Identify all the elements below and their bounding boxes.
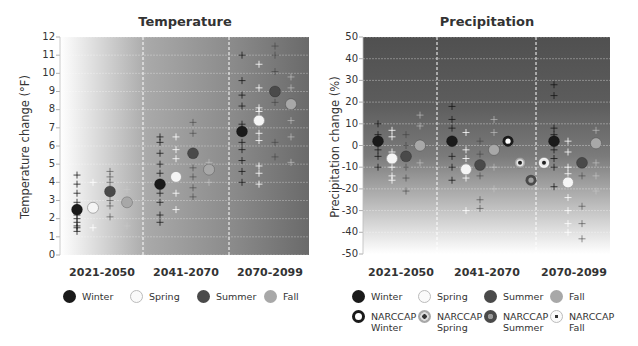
spring-mean-marker: [461, 164, 472, 175]
ytick: 0: [33, 249, 55, 260]
winter-mean-marker: [72, 204, 83, 215]
ytick: 2: [33, 212, 55, 223]
summer-mean-marker: [188, 148, 199, 159]
legend-item-spring: Spring: [130, 290, 180, 303]
ytick: 20: [336, 96, 358, 107]
legend-label: NARCCAP Fall: [569, 310, 614, 333]
temperature-y-axis-label: Temperature change (°F): [18, 62, 32, 232]
legend-label: Winter: [371, 290, 402, 302]
winter-swatch-icon: [63, 290, 76, 303]
winter-mean-marker: [155, 179, 166, 190]
narccap-winter-swatch-icon: [352, 310, 365, 323]
summer-mean-marker: [270, 86, 281, 97]
ytick: 7: [33, 122, 55, 133]
ytick: 6: [33, 140, 55, 151]
precipitation-period-label: 2070-2099: [534, 266, 614, 279]
legend-item-narccap-spring: NARCCAP Spring: [418, 310, 482, 333]
fall-mean-marker: [591, 138, 602, 149]
ytick: 3: [33, 194, 55, 205]
legend-label: Spring: [149, 290, 180, 302]
legend-label: NARCCAP Summer: [503, 310, 548, 333]
narccap-spring-swatch-icon: [418, 310, 431, 323]
legend-label: Winter: [82, 290, 113, 302]
summer-mean-marker: [475, 160, 486, 171]
legend-item-narccap-fall: NARCCAP Fall: [550, 310, 614, 333]
ytick: 1: [33, 231, 55, 242]
ytick: 40: [336, 53, 358, 64]
spring-mean-marker: [88, 202, 99, 213]
spring-mean-marker: [563, 177, 574, 188]
ytick: 50: [336, 31, 358, 42]
summer-mean-marker: [577, 157, 588, 168]
ytick: 9: [33, 85, 55, 96]
legend-label: Spring: [437, 290, 468, 302]
fall-swatch-icon: [264, 290, 277, 303]
ytick: 30: [336, 74, 358, 85]
legend-item-fall: Fall: [550, 290, 585, 303]
legend-label: NARCCAP Spring: [437, 310, 482, 333]
legend-item-summer: Summer: [484, 290, 543, 303]
precipitation-title: Precipitation: [363, 14, 611, 29]
winter-mean-marker: [237, 126, 248, 137]
temperature-plot-area: [56, 37, 309, 255]
ytick: 10: [33, 67, 55, 78]
winter-mean-marker: [447, 136, 458, 147]
narccap-fall-swatch-icon: [550, 310, 563, 323]
ytick: -20: [336, 183, 358, 194]
spring-mean-marker: [387, 153, 398, 164]
fall-mean-marker: [204, 164, 215, 175]
legend-item-summer: Summer: [197, 290, 256, 303]
fall-mean-marker: [415, 140, 426, 151]
spring-mean-marker: [171, 171, 182, 182]
legend-label: Summer: [503, 290, 543, 302]
temperature-period-label: 2021-2050: [62, 266, 142, 279]
spring-swatch-icon: [130, 290, 143, 303]
precipitation-plot-area: [359, 37, 610, 254]
ytick: 10: [336, 118, 358, 129]
narccap-summer-swatch-icon: [484, 310, 497, 323]
legend-item-narccap-winter: NARCCAP Winter: [352, 310, 416, 333]
legend-item-winter: Winter: [63, 290, 113, 303]
temperature-title: Temperature: [60, 14, 310, 29]
precipitation-period-label: 2021-2050: [361, 266, 441, 279]
summer-mean-marker: [105, 186, 116, 197]
summer-swatch-icon: [484, 290, 497, 303]
ytick: 4: [33, 176, 55, 187]
ytick: -40: [336, 226, 358, 237]
ytick: 5: [33, 158, 55, 169]
summer-mean-marker: [401, 151, 412, 162]
legend-label: Fall: [569, 290, 585, 302]
spring-mean-marker: [254, 115, 265, 126]
winter-mean-marker: [549, 136, 560, 147]
fall-mean-marker: [286, 99, 297, 110]
temperature-period-label: 2041-2070: [146, 266, 226, 279]
summer-swatch-icon: [197, 290, 210, 303]
ytick: -50: [336, 248, 358, 259]
fall-mean-marker: [122, 197, 133, 208]
legend-label: Summer: [216, 290, 256, 302]
ytick: 0: [336, 140, 358, 151]
legend-item-spring: Spring: [418, 290, 468, 303]
ytick: 8: [33, 103, 55, 114]
legend-item-winter: Winter: [352, 290, 402, 303]
legend-label: Fall: [283, 290, 299, 302]
precipitation-period-label: 2041-2070: [447, 266, 527, 279]
ytick: 12: [33, 31, 55, 42]
fall-swatch-icon: [550, 290, 563, 303]
legend-item-fall: Fall: [264, 290, 299, 303]
winter-mean-marker: [373, 136, 384, 147]
ytick: 11: [33, 49, 55, 60]
spring-swatch-icon: [418, 290, 431, 303]
legend-item-narccap-summer: NARCCAP Summer: [484, 310, 548, 333]
legend-label: NARCCAP Winter: [371, 310, 416, 333]
winter-swatch-icon: [352, 290, 365, 303]
fall-mean-marker: [489, 144, 500, 155]
ytick: -10: [336, 161, 358, 172]
ytick: -30: [336, 205, 358, 216]
temperature-period-label: 2070-2099: [230, 266, 310, 279]
